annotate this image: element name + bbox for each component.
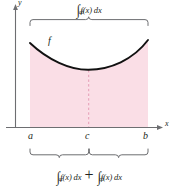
integral-lower-limit: c <box>99 177 101 183</box>
x-tick-label-c: c <box>85 131 89 141</box>
y-axis-label: y <box>18 0 22 7</box>
integral-expression-c-to-b: ∫ b c f(x)dx <box>97 172 122 183</box>
top-brace-a-to-b <box>30 17 148 26</box>
integral-expression-a-to-c: ∫ c a f(x)dx <box>56 172 81 183</box>
y-axis <box>13 4 18 128</box>
top-integral-formula: ∫ b a f(x)dx <box>0 0 178 16</box>
integral-lower-limit: a <box>79 10 82 16</box>
x-tick-label-b: b <box>143 131 148 141</box>
x-axis-label: x <box>165 120 169 128</box>
integral-additivity-figure: ∫ b a f(x)dx ∫ c a f(x)dx + ∫ b c f(x)dx… <box>0 0 178 191</box>
x-tick-label-a: a <box>28 131 33 141</box>
differential: dx <box>94 5 102 15</box>
integral-lower-limit: a <box>59 177 62 183</box>
curve-label-f: f <box>48 36 51 46</box>
figure-canvas <box>0 0 178 191</box>
bottom-integral-formula: ∫ c a f(x)dx + ∫ b c f(x)dx <box>0 167 178 183</box>
bottom-brace-c-to-b <box>89 149 148 158</box>
shaded-area-c-to-b <box>89 38 149 127</box>
plus-operator: + <box>84 166 93 183</box>
integral-expression-a-to-b: ∫ b a f(x)dx <box>76 5 101 16</box>
differential: dx <box>73 172 81 182</box>
differential: dx <box>114 172 122 182</box>
bottom-brace-a-to-c <box>30 149 89 158</box>
